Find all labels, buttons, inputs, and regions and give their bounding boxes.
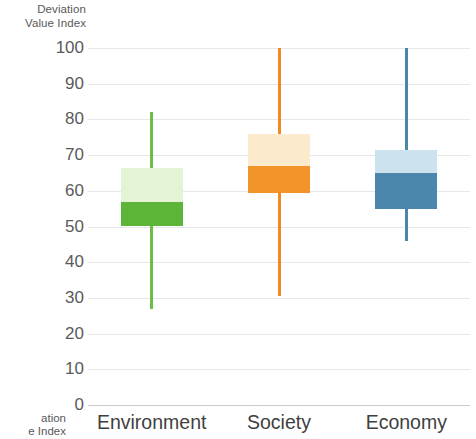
gridline <box>88 405 470 406</box>
plot-area <box>88 48 470 405</box>
x-axis-category-labels: EnvironmentSocietyEconomy <box>88 409 470 439</box>
y-axis-tick-label: 100 <box>0 39 84 56</box>
box-plot-series[interactable] <box>121 48 183 405</box>
clipped-caption-line1: ation <box>0 412 66 425</box>
y-axis-title-line1: Deviation <box>0 2 86 16</box>
box-plot-series[interactable] <box>375 48 437 405</box>
y-axis-tick-label: 90 <box>0 75 84 92</box>
y-axis-tick-label: 10 <box>0 360 84 377</box>
y-axis-title-line2: Value Index <box>0 16 86 30</box>
y-axis-tick-label: 40 <box>0 253 84 270</box>
y-axis-tick-label: 0 <box>0 396 84 413</box>
whisker-line <box>405 48 408 241</box>
y-axis-tick-label: 50 <box>0 218 84 235</box>
y-axis-title: Deviation Value Index <box>0 2 86 30</box>
y-axis-tick-labels: 1009080706050403020100 <box>0 48 84 405</box>
clipped-caption: ation e Index <box>0 412 66 438</box>
y-axis-tick-label: 20 <box>0 325 84 342</box>
box-lower-quartile <box>121 202 183 227</box>
x-axis-category-label: Society <box>215 409 342 435</box>
box-upper-quartile <box>121 168 183 202</box>
y-axis-tick-label: 70 <box>0 146 84 163</box>
box-upper-quartile <box>248 134 310 166</box>
box-plot-series[interactable] <box>248 48 310 405</box>
box-lower-quartile <box>248 166 310 193</box>
box-plot-chart: Deviation Value Index 100908070605040302… <box>0 0 476 439</box>
x-axis-category-label: Environment <box>88 409 215 435</box>
y-axis-tick-label: 80 <box>0 110 84 127</box>
clipped-caption-line2: e Index <box>0 425 66 438</box>
y-axis-tick-label: 60 <box>0 182 84 199</box>
box-lower-quartile <box>375 173 437 209</box>
y-axis-tick-label: 30 <box>0 289 84 306</box>
box-upper-quartile <box>375 150 437 173</box>
x-axis-category-label: Economy <box>343 409 470 435</box>
